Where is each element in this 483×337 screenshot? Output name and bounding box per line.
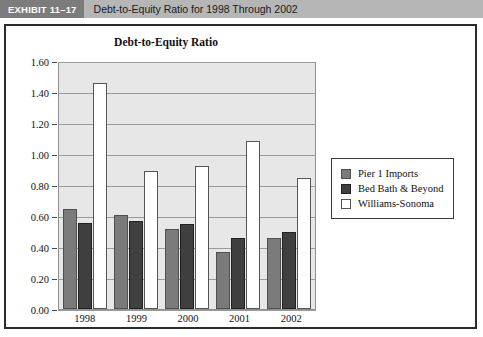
y-axis-tick-label: 0.80 [31, 181, 49, 192]
bar [282, 232, 296, 309]
legend-item: Williams-Sonoma [341, 196, 443, 211]
y-axis-tick-label: 1.40 [31, 88, 49, 99]
y-axis-tick-label: 0.00 [31, 305, 49, 316]
y-axis-tick [52, 62, 57, 63]
y-axis-tick [52, 310, 57, 311]
bar [93, 83, 107, 309]
y-axis-tick-label: 0.40 [31, 243, 49, 254]
bar [246, 141, 260, 309]
y-axis-tick-label: 0.60 [31, 212, 49, 223]
bar [63, 209, 77, 309]
chart-title: Debt-to-Equity Ratio [6, 36, 326, 48]
legend-swatch-icon [341, 169, 351, 179]
bar [144, 171, 158, 309]
x-axis-label: 1999 [111, 313, 163, 324]
legend-label: Bed Bath & Beyond [358, 183, 443, 194]
y-axis-tick [52, 248, 57, 249]
exhibit-title: Debt-to-Equity Ratio for 1998 Through 20… [84, 3, 298, 15]
y-axis-tick-label: 1.20 [31, 119, 49, 130]
y-axis-tick [52, 155, 57, 156]
x-axis-label: 2000 [162, 313, 214, 324]
legend-label: Williams-Sonoma [358, 198, 434, 209]
bar-group [213, 63, 264, 309]
bar [180, 224, 194, 309]
y-axis-tick [52, 124, 57, 125]
x-axis-label: 1998 [59, 313, 111, 324]
y-axis-tick [52, 279, 57, 280]
bar-group [264, 63, 315, 309]
legend-swatch-icon [341, 199, 351, 209]
legend-label: Pier 1 Imports [358, 168, 418, 179]
x-axis-label: 2001 [214, 313, 266, 324]
legend-item: Bed Bath & Beyond [341, 181, 443, 196]
legend-item: Pier 1 Imports [341, 166, 443, 181]
bar-group [161, 63, 212, 309]
bar-group [110, 63, 161, 309]
plot-wrapper: 0.000.200.400.600.801.001.201.401.60 [58, 62, 316, 310]
y-axis-tick-label: 0.20 [31, 274, 49, 285]
bar [129, 221, 143, 309]
bars-layer [59, 63, 315, 309]
x-axis-label: 2002 [265, 313, 317, 324]
bar [195, 166, 209, 309]
bar [267, 238, 281, 309]
y-axis-tick [52, 186, 57, 187]
bar [231, 238, 245, 309]
bar [216, 252, 230, 309]
bar [165, 229, 179, 309]
bar-group [59, 63, 110, 309]
gridline [58, 310, 316, 311]
bar [114, 215, 128, 309]
bar [78, 223, 92, 309]
y-axis-tick [52, 217, 57, 218]
x-axis-labels: 19981999200020012002 [59, 313, 317, 324]
legend-swatch-icon [341, 184, 351, 194]
y-axis-tick-label: 1.60 [31, 57, 49, 68]
y-axis-tick [52, 93, 57, 94]
y-axis-tick-label: 1.00 [31, 150, 49, 161]
exhibit-number-badge: EXHIBIT 11–17 [0, 0, 84, 18]
chart-legend: Pier 1 ImportsBed Bath & BeyondWilliams-… [331, 158, 454, 219]
exhibit-header: EXHIBIT 11–17 Debt-to-Equity Ratio for 1… [0, 0, 483, 18]
bar [297, 178, 311, 309]
chart-card: Debt-to-Equity Ratio 0.000.200.400.600.8… [4, 24, 477, 329]
